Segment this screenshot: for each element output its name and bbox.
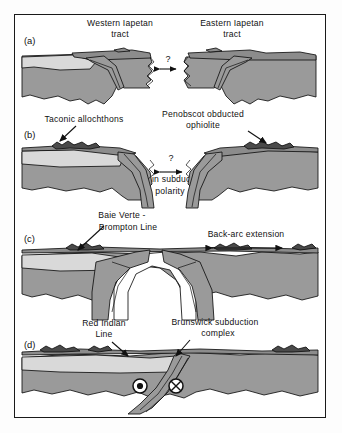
- panel-b-tag: (b): [24, 129, 35, 140]
- panel-b: (b) Taconic allochthons Penobscot obduct…: [22, 109, 318, 208]
- panel-a-right-lower-crust: [184, 54, 316, 104]
- red-indian-line-label-line2: Line: [95, 329, 112, 339]
- baie-verte-brompton-label-line2: Brompton Line: [99, 222, 158, 232]
- taconic-allochthons-label: Taconic allochthons: [45, 114, 124, 124]
- panel-a-right-surface-bump: [206, 48, 222, 52]
- panel-b-allochthon-lumps: [52, 141, 100, 149]
- brunswick-subduction-label-line2: complex: [201, 328, 235, 338]
- penobscot-ophiolite-label-line2: ophiolite: [186, 120, 220, 130]
- penobscot-ophiolite-leader: [248, 131, 266, 143]
- taconic-allochthons-leader: [60, 126, 76, 141]
- panel-a-question-mark: ?: [165, 54, 170, 64]
- motion-toward-viewer-symbol: [133, 379, 147, 393]
- panel-a-left-upper-band: [72, 50, 151, 60]
- panel-d: (d) Red Indian Line Brunswick subduction…: [22, 317, 318, 414]
- panel-d-tag: (d): [24, 339, 35, 350]
- panel-c-tag: (c): [24, 233, 35, 244]
- baie-verte-brompton-label-line1: Baie Verte -: [98, 210, 145, 220]
- motion-away-from-viewer-symbol: [169, 379, 183, 393]
- panel-d-surface-lumps-right: [272, 345, 310, 352]
- panel-a: (a) Western Iapetan tract Eastern Iapeta…: [22, 18, 316, 104]
- panel-c: (c) Baie Verte - Brompton Line Back-arc …: [22, 210, 318, 320]
- eastern-iapetan-tract-label-line2: tract: [223, 29, 241, 39]
- red-indian-line-label-line1: Red Indian: [82, 318, 126, 328]
- panel-c-surface-lumps-right: [214, 243, 252, 250]
- panel-b-right-ophiolite-lumps: [244, 141, 294, 149]
- diagram-svg: (a) Western Iapetan tract Eastern Iapeta…: [0, 0, 342, 433]
- panel-d-surface-lumps-left: [40, 345, 80, 352]
- panel-a-left-surface-bump: [114, 48, 130, 52]
- panel-d-left-light-band: [22, 355, 176, 373]
- back-arc-extension-label: Back-arc extension: [208, 229, 285, 239]
- flip-subduction-label-line2: polarity: [155, 186, 185, 196]
- panel-a-tag: (a): [24, 35, 35, 46]
- brunswick-subduction-label-line1: Brunswick subduction: [171, 317, 258, 327]
- eastern-iapetan-tract-label-line1: Eastern Iapetan: [200, 18, 264, 28]
- panel-b-question-mark: ?: [168, 153, 173, 163]
- western-iapetan-tract-label-line1: Western Iapetan: [87, 18, 153, 28]
- western-iapetan-tract-label-line2: tract: [111, 29, 129, 39]
- penobscot-ophiolite-label-line1: Penobscot obducted: [162, 109, 244, 119]
